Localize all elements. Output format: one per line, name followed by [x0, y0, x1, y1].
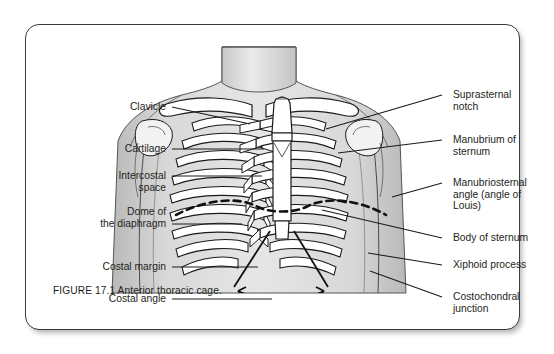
sternal-angle [272, 133, 292, 141]
label-body-of-sternum: Body of sternum [453, 232, 554, 244]
sternum [272, 97, 292, 239]
label-cartilage: Cartilage [68, 143, 166, 155]
figure-caption: FIGURE 17.1 Anterior thoracic cage. [53, 285, 222, 296]
xiphoid-process [275, 221, 289, 239]
label-manubrium-of-sternum: Manubrium of sternum [453, 134, 554, 157]
manubrium [272, 97, 292, 133]
label-costochondral-junction: Costochondral junction [453, 291, 554, 314]
figure-card: ClavicleCartilageIntercostal spaceDome o… [25, 24, 520, 330]
body-of-sternum [273, 141, 291, 221]
label-dome-of-the-diaphragm: Dome of the diaphragm [44, 206, 166, 229]
label-clavicle: Clavicle [78, 101, 166, 113]
label-intercostal-space: Intercostal space [56, 170, 166, 193]
label-costal-margin: Costal margin [52, 261, 166, 273]
label-manubriosternal-angle-angle-of-louis: Manubriosternal angle (angle of Louis) [453, 177, 554, 212]
label-xiphoid-process: Xiphoid process [453, 259, 554, 271]
label-suprasternal-notch: Suprasternal notch [453, 89, 554, 112]
